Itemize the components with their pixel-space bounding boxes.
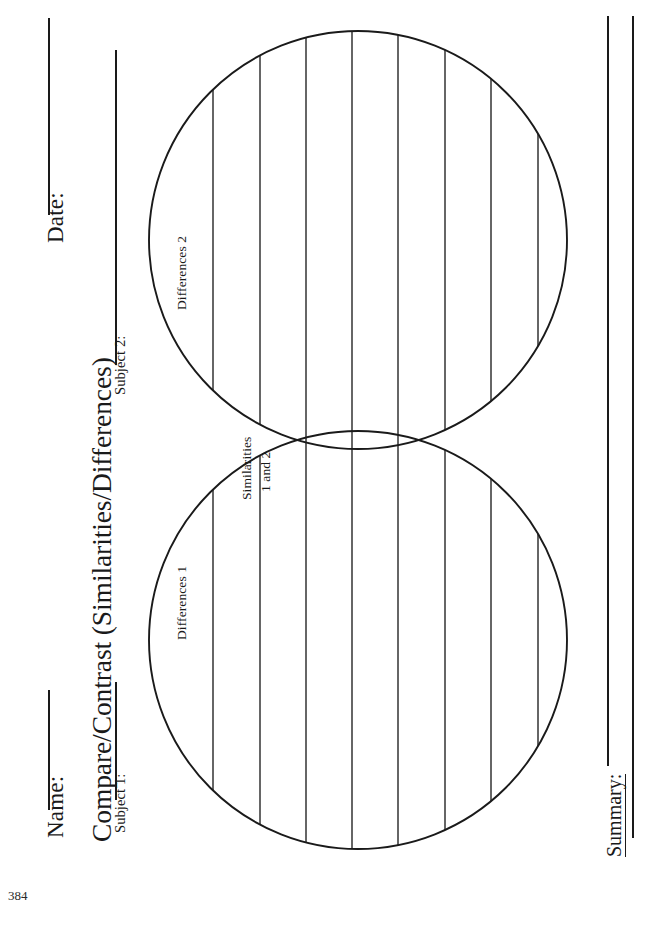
venn-circle-differences-2[interactable]	[149, 31, 567, 449]
summary-label: Summary:	[604, 774, 626, 857]
venn-diagram	[0, 0, 648, 927]
venn-label-differences-2: Differences 2	[175, 236, 189, 310]
summary-line-2[interactable]	[632, 16, 634, 838]
venn-label-similarities-line2: 1 and 2	[259, 452, 273, 492]
worksheet-page: 384 Name: Date: Compare/Contrast (Simila…	[0, 0, 648, 927]
venn-label-similarities-line1: Similarities	[240, 437, 254, 500]
venn-label-differences-1: Differences 1	[175, 566, 189, 640]
summary-line-1[interactable]	[607, 16, 609, 766]
venn-circle-differences-1[interactable]	[149, 431, 567, 849]
